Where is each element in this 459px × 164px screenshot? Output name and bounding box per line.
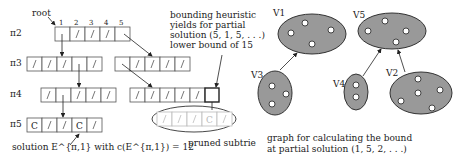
- pruned-label: pruned subtrie: [188, 138, 256, 148]
- column-numbers: 1 2 3 4 5: [59, 19, 123, 27]
- graph-node-v3: V3: [250, 70, 292, 115]
- svg-text:solution (5, 1, 5, . . .): solution (5, 1, 5, . . .): [170, 30, 265, 40]
- row-label-pi3: π3: [10, 58, 22, 68]
- figure-canvas: root 1 2 3 4 5 π2 π3 π4 π5: [0, 0, 459, 164]
- root-arrow-icon: [48, 17, 55, 25]
- graph-node-v2: V2: [385, 68, 452, 114]
- trie-node-pi4-left: [41, 88, 116, 102]
- row-label-pi5: π5: [10, 119, 22, 129]
- svg-text:3: 3: [89, 19, 93, 27]
- bounding-annotation: bounding heuristic yields for partial so…: [169, 10, 265, 50]
- pruned-subtrie: C: [152, 106, 236, 132]
- svg-text:C: C: [31, 121, 38, 131]
- row-label-pi2: π2: [10, 28, 22, 38]
- trie-node-pi3-left: [27, 57, 102, 71]
- svg-text:V2: V2: [385, 68, 398, 78]
- solution-label: solution E^{π,1} with c(E^{π,1}) = 12: [12, 142, 194, 152]
- svg-text:2: 2: [74, 19, 78, 27]
- svg-text:C: C: [206, 115, 213, 125]
- trie-node-pi2: [55, 27, 130, 41]
- graph-node-v1: V1: [272, 8, 346, 54]
- trie-node-pi3-right: [115, 57, 190, 71]
- row-label-pi4: π4: [10, 89, 22, 99]
- graph-node-v4: V4: [332, 74, 368, 110]
- bounded-cell: [205, 88, 219, 102]
- svg-text:V5: V5: [352, 10, 365, 20]
- bound-graph: V1 V5 V3 V4: [250, 8, 452, 154]
- svg-text:C: C: [76, 121, 83, 131]
- root-label: root: [32, 8, 51, 18]
- trie-node-pi4-right: [130, 88, 219, 102]
- svg-text:1: 1: [59, 19, 63, 27]
- svg-text:bounding heuristic: bounding heuristic: [170, 10, 256, 20]
- graph-caption-line2: at partial solution (1, 5, 2, . . .): [267, 144, 407, 154]
- graph-node-v5: V5: [352, 10, 426, 49]
- trie-diagram: root 1 2 3 4 5 π2 π3 π4 π5: [10, 8, 265, 152]
- svg-text:V4: V4: [332, 79, 345, 89]
- svg-text:4: 4: [104, 19, 109, 27]
- svg-text:5: 5: [119, 19, 123, 27]
- graph-caption-line1: graph for calculating the bound: [267, 133, 412, 143]
- svg-text:yields for partial: yields for partial: [169, 20, 246, 30]
- svg-text:V3: V3: [250, 70, 263, 80]
- trie-node-pi5: C C: [27, 118, 102, 132]
- svg-text:lower bound of 15: lower bound of 15: [170, 40, 253, 50]
- svg-text:V1: V1: [272, 8, 285, 18]
